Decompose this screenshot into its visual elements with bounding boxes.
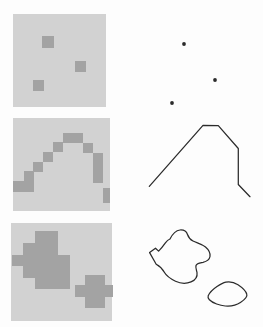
raster-vs-vector-figure [0, 0, 263, 327]
pixel-cell [103, 188, 110, 203]
pixel-cell [24, 171, 34, 192]
pixel-cell [93, 153, 103, 183]
pixel-cell [75, 285, 113, 297]
pixel-cell [12, 255, 70, 266]
pixel-cell [33, 162, 43, 172]
pixel-cell [23, 266, 70, 278]
pixel-cell [53, 142, 63, 152]
feature-curve-line [149, 125, 250, 196]
feature-point-dot [213, 78, 217, 82]
vector-curve-panel [149, 125, 250, 196]
feature-point-dot [182, 42, 186, 46]
pixel-cell [35, 278, 70, 289]
vector-regions-panel [150, 230, 247, 306]
region-outline-1 [150, 230, 210, 283]
raster-points-panel-background [13, 14, 106, 107]
pixel-cell [75, 61, 86, 72]
figure-canvas [0, 0, 263, 327]
raster-points-panel [13, 14, 106, 107]
pixel-cell [63, 133, 83, 143]
pixel-cell [43, 152, 53, 162]
pixel-cell [83, 143, 93, 153]
pixel-cell [35, 231, 58, 243]
vector-points-panel [170, 42, 217, 105]
raster-regions-panel [11, 223, 113, 321]
pixel-cell [33, 80, 44, 91]
pixel-cell [13, 181, 24, 192]
pixel-cell [23, 243, 58, 255]
pixel-cell [42, 36, 54, 48]
raster-curve-panel [13, 118, 110, 211]
region-outline-2 [208, 282, 247, 306]
feature-point-dot [170, 101, 174, 105]
pixel-cell [85, 297, 105, 308]
pixel-cell [85, 275, 105, 285]
